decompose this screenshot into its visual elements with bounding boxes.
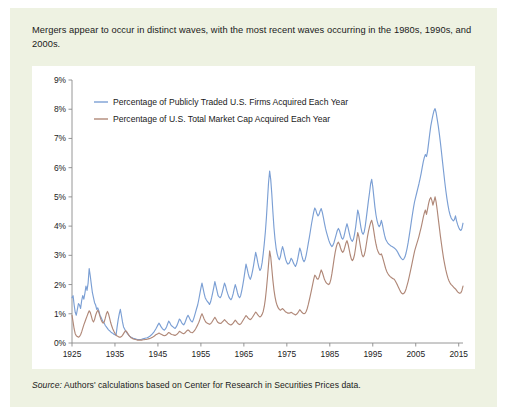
source-note: Source: Authors' calculations based on C… (32, 380, 482, 390)
x-tick-label: 1995 (363, 349, 382, 359)
y-tick-label: 5% (54, 192, 67, 202)
x-tick-label: 1925 (63, 349, 82, 359)
legend-label-1: Percentage of U.S. Total Market Cap Acqu… (113, 114, 330, 124)
x-tick-label: 2005 (406, 349, 425, 359)
x-tick-label: 1975 (278, 349, 297, 359)
plot-background (32, 66, 475, 369)
y-tick-label: 0% (54, 338, 67, 348)
figure-panel: Mergers appear to occur in distinct wave… (10, 8, 497, 407)
y-tick-label: 8% (54, 104, 67, 114)
x-tick-label: 1935 (106, 349, 125, 359)
legend-label-0: Percentage of Publicly Traded U.S. Firms… (113, 97, 348, 107)
x-tick-label: 1985 (320, 349, 339, 359)
y-tick-label: 3% (54, 250, 67, 260)
x-tick-label: 1965 (235, 349, 254, 359)
y-tick-label: 4% (54, 221, 67, 231)
y-tick-label: 1% (54, 309, 67, 319)
x-tick-label: 1945 (149, 349, 168, 359)
y-tick-label: 6% (54, 163, 67, 173)
y-tick-label: 7% (54, 133, 67, 143)
y-tick-label: 9% (54, 75, 67, 85)
figure-caption: Mergers appear to occur in distinct wave… (32, 24, 472, 51)
x-tick-label: 1955 (192, 349, 211, 359)
source-text: Authors' calculations based on Center fo… (62, 380, 361, 390)
x-tick-label: 2015 (449, 349, 468, 359)
chart-svg: 0%1%2%3%4%5%6%7%8%9% 1925193519451955196… (32, 66, 475, 369)
y-tick-label: 2% (54, 280, 67, 290)
chart-plot-area: 0%1%2%3%4%5%6%7%8%9% 1925193519451955196… (32, 66, 475, 369)
source-label: Source: (32, 380, 62, 390)
